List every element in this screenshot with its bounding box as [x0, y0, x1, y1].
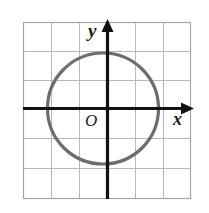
coordinate-plane-svg	[0, 0, 209, 213]
x-axis-label: x	[173, 110, 182, 128]
origin-label: O	[85, 112, 97, 129]
y-axis-label: y	[88, 21, 96, 40]
math-figure-coordinate-plane: y x O	[0, 0, 209, 213]
